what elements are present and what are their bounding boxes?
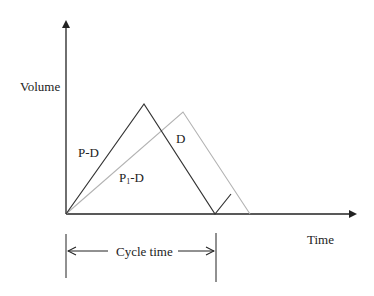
p-d-label: P-D: [78, 146, 99, 159]
d-label: D: [176, 132, 185, 145]
y-axis-label: Volume: [20, 80, 60, 93]
p1-d-label: P1-D: [119, 171, 144, 186]
light-production-line: [66, 112, 250, 214]
p1-tail: -D: [130, 170, 144, 185]
x-axis-label: Time: [307, 233, 334, 246]
inventory-cycle-diagram: [0, 0, 374, 296]
cycle-time-label: Cycle time: [116, 245, 173, 258]
